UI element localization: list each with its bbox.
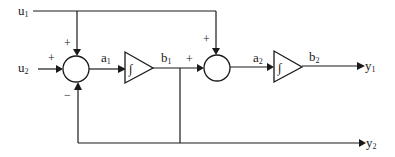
summing-junction-2 <box>204 55 230 81</box>
y2-label: y2 <box>366 135 377 151</box>
a1-wire <box>89 65 126 73</box>
sum1-sign-top: + <box>64 36 71 50</box>
y1-label: y1 <box>365 58 376 74</box>
sum1-sign-bottom: − <box>64 88 71 102</box>
integrator-1: ∫ <box>125 52 153 83</box>
u2-wire <box>38 65 63 73</box>
sum2-sign-top: + <box>203 32 210 46</box>
u2-label: u2 <box>18 60 29 76</box>
u1-wire <box>33 11 220 56</box>
summing-junction-1 <box>63 56 89 82</box>
feedback-wire <box>74 82 366 147</box>
a2-label: a2 <box>253 50 263 66</box>
a1-label: a1 <box>101 50 111 66</box>
integrator-2: ∫ <box>274 51 302 82</box>
a2-wire <box>230 63 274 71</box>
block-diagram: u1 u2 + + − a1 ∫ b1 + + a2 <box>0 0 395 157</box>
b2-label: b2 <box>309 49 320 65</box>
sum2-sign-left: + <box>186 52 193 66</box>
sum1-sign-left: + <box>48 51 55 65</box>
u1-label: u1 <box>18 3 29 19</box>
b1-wire <box>153 64 204 143</box>
b1-label: b1 <box>161 50 172 66</box>
